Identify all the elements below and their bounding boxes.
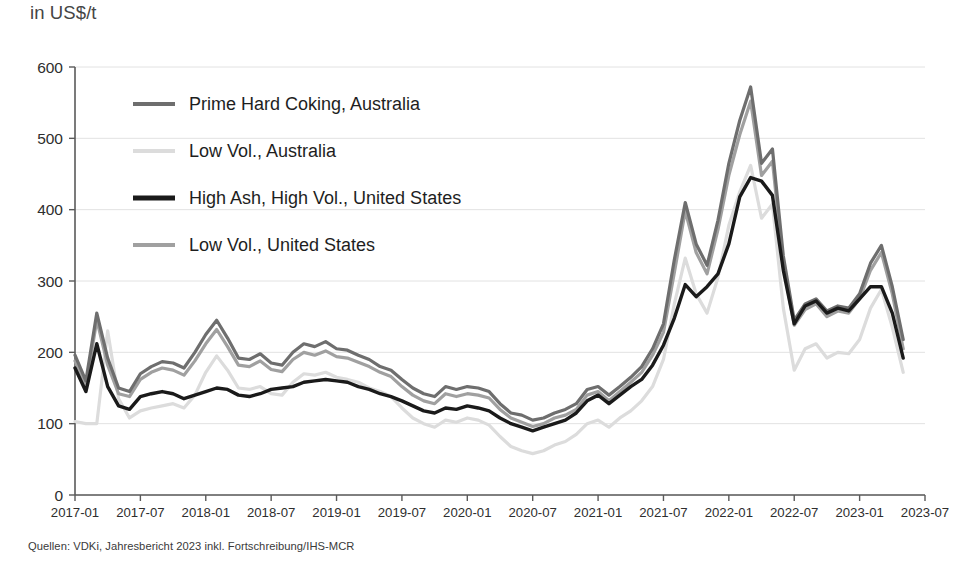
x-tick-label: 2020-01 bbox=[443, 505, 491, 520]
legend-label: Low Vol., Australia bbox=[189, 141, 337, 161]
x-axis-ticks: 2017-012017-072018-012018-072019-012019-… bbox=[51, 495, 949, 520]
x-tick-label: 2017-01 bbox=[51, 505, 99, 520]
legend-label: High Ash, High Vol., United States bbox=[189, 188, 461, 208]
x-tick-label: 2019-07 bbox=[378, 505, 426, 520]
chart-legend: Prime Hard Coking, AustraliaLow Vol., Au… bbox=[133, 94, 461, 255]
x-tick-label: 2018-07 bbox=[247, 505, 295, 520]
legend-label: Low Vol., United States bbox=[189, 235, 375, 255]
x-tick-label: 2023-07 bbox=[901, 505, 949, 520]
y-axis-ticks: 6005004003002001000 bbox=[37, 59, 75, 504]
source-note: Quellen: VDKi, Jahresbericht 2023 inkl. … bbox=[28, 540, 354, 552]
gridlines bbox=[75, 67, 925, 495]
x-tick-label: 2022-01 bbox=[705, 505, 753, 520]
x-tick-label: 2020-07 bbox=[508, 505, 556, 520]
y-tick-label: 600 bbox=[37, 59, 63, 76]
x-tick-label: 2021-01 bbox=[574, 505, 622, 520]
x-tick-label: 2022-07 bbox=[770, 505, 818, 520]
x-tick-label: 2021-07 bbox=[639, 505, 687, 520]
x-tick-label: 2023-01 bbox=[835, 505, 883, 520]
x-tick-label: 2017-07 bbox=[116, 505, 164, 520]
y-tick-label: 0 bbox=[54, 487, 63, 504]
chart-figure: in US$/t 6005004003002001000 2017-012017… bbox=[0, 0, 956, 563]
y-tick-label: 500 bbox=[37, 130, 63, 147]
x-tick-label: 2019-01 bbox=[312, 505, 360, 520]
y-tick-label: 300 bbox=[37, 273, 63, 290]
x-tick-label: 2018-01 bbox=[182, 505, 230, 520]
y-tick-label: 400 bbox=[37, 201, 63, 218]
line-chart: 6005004003002001000 2017-012017-072018-0… bbox=[0, 0, 956, 530]
y-tick-label: 100 bbox=[37, 415, 63, 432]
y-tick-label: 200 bbox=[37, 344, 63, 361]
legend-label: Prime Hard Coking, Australia bbox=[189, 94, 421, 114]
